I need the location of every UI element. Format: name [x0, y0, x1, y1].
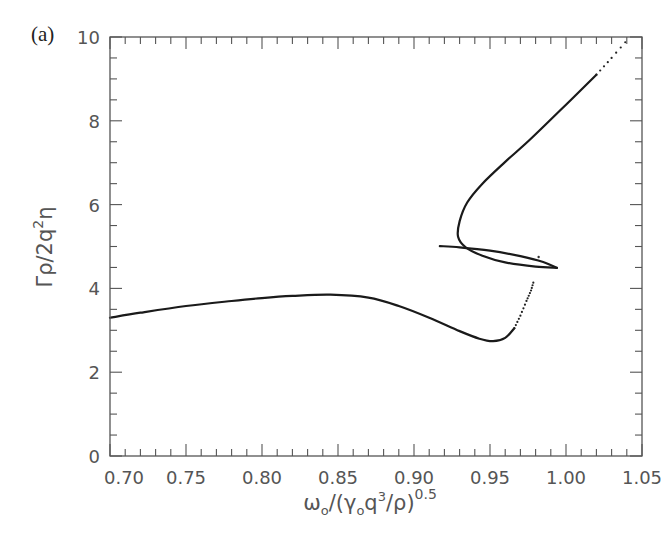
- curve-dot: [524, 304, 526, 306]
- curve-layer: [110, 41, 626, 341]
- x-tick-label: 0.75: [166, 467, 206, 488]
- stray-point: [537, 256, 539, 258]
- x-tick-label: 0.80: [242, 467, 282, 488]
- curve-dot: [518, 318, 520, 320]
- figure: (a) 0.700.750.800.850.900.951.001.050246…: [0, 0, 671, 538]
- x-tick-label: 0.95: [470, 467, 510, 488]
- curve-dot: [527, 297, 529, 299]
- x-tick-label: 1.00: [546, 467, 586, 488]
- curve-loop-lower-edge-and-upper-branch: [458, 75, 597, 268]
- curve-dot: [519, 315, 521, 317]
- curve-dot: [607, 61, 609, 63]
- curve-dot: [516, 321, 518, 323]
- y-tick-label: 6: [89, 195, 100, 216]
- curve-dot: [603, 65, 605, 67]
- x-tick-label: 0.90: [394, 467, 434, 488]
- curve-dot: [531, 284, 533, 286]
- x-tick-label: 0.70: [104, 467, 144, 488]
- x-tick-label: 0.85: [318, 467, 358, 488]
- curve-dot: [531, 287, 533, 289]
- plot-frame: [110, 37, 642, 456]
- curve-dot: [624, 41, 626, 43]
- curve-dot: [529, 292, 531, 294]
- curve-dot: [530, 289, 532, 291]
- curve-dot: [532, 282, 534, 284]
- curve-dot: [521, 311, 523, 313]
- y-axis-label: Γρ/2q2η: [30, 206, 57, 287]
- y-tick-label: 0: [89, 446, 100, 467]
- curve-dot: [620, 46, 622, 48]
- y-tick-label: 4: [89, 278, 100, 299]
- curve-dot: [599, 69, 601, 71]
- panel-label: (a): [31, 22, 54, 47]
- curve-dot: [525, 300, 527, 302]
- y-tick-label: 2: [89, 362, 100, 383]
- curve-lower-branch: [110, 295, 514, 342]
- x-tick-label: 1.05: [622, 467, 662, 488]
- y-tick-label: 8: [89, 111, 100, 132]
- curve-dot: [522, 307, 524, 309]
- curve-dot: [528, 295, 530, 297]
- curve-dot: [595, 74, 597, 76]
- curve-dot: [611, 57, 613, 59]
- chart: 0.700.750.800.850.900.951.001.050246810 …: [0, 0, 671, 538]
- curve-dot: [515, 324, 517, 326]
- curve-dot: [615, 52, 617, 54]
- curve-dot: [513, 327, 515, 329]
- x-axis-label: ωo/(γoq3/ρ)0.5: [303, 486, 437, 518]
- y-tick-label: 10: [77, 27, 100, 48]
